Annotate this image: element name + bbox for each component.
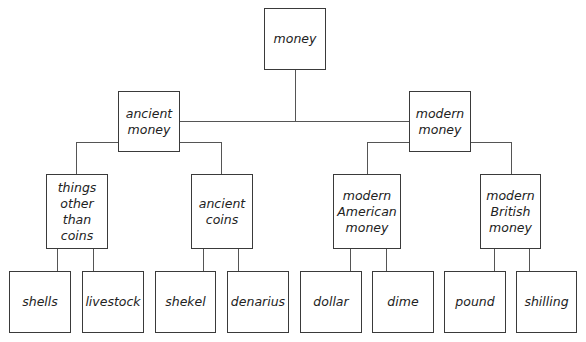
connector-pound (494, 248, 495, 271)
connector-modern-right (470, 142, 512, 143)
connector-american-down (367, 142, 368, 174)
connector-shilling (529, 248, 530, 271)
connector-dime (386, 248, 387, 271)
connector-shells (57, 248, 58, 271)
connector-dollar (350, 248, 351, 271)
node-ancient-money: ancient money (118, 91, 180, 152)
connector-ancient-left (76, 142, 118, 143)
node-modern-british-money: modern British money (480, 174, 541, 249)
connector-livestock (93, 248, 94, 271)
connector-shekel (203, 248, 204, 271)
node-money: money (264, 8, 326, 70)
node-things-other-than-coins: things other than coins (46, 174, 108, 249)
node-dime: dime (372, 271, 434, 333)
connector-level1-horizontal (179, 121, 409, 122)
node-shells: shells (9, 271, 71, 333)
connector-modern-left (367, 142, 409, 143)
money-tree-diagram: money ancient money modern money things … (0, 0, 586, 342)
connector-ancient-coins-down (221, 142, 222, 174)
node-denarius: denarius (227, 271, 289, 333)
node-shilling: shilling (516, 271, 577, 333)
node-dollar: dollar (300, 271, 362, 333)
node-livestock: livestock (82, 271, 144, 333)
connector-british-down (511, 142, 512, 174)
connector-denarius (238, 248, 239, 271)
node-pound: pound (444, 271, 506, 333)
connector-root-down (295, 69, 296, 121)
node-ancient-coins: ancient coins (191, 174, 253, 249)
connector-things-down (76, 142, 77, 174)
connector-ancient-right (179, 142, 221, 143)
node-modern-money: modern money (409, 91, 471, 152)
node-modern-american-money: modern American money (333, 174, 401, 249)
node-shekel: shekel (155, 271, 216, 333)
